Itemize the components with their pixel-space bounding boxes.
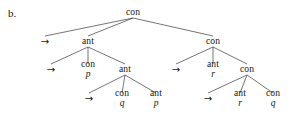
tree-node-ant: ant — [119, 65, 131, 75]
tree-node-label: ant — [119, 65, 131, 75]
tree-node-label: con — [206, 37, 220, 47]
tree-node-sublabel: p — [150, 99, 162, 109]
tree-node-ant: antr — [234, 89, 246, 109]
tree-node-label: con — [240, 65, 254, 75]
tree-edges — [0, 0, 297, 120]
tree-node-con: con — [206, 37, 220, 47]
tree-edge — [133, 18, 213, 36]
tree-node-con: conq — [115, 89, 129, 109]
arrow-icon: → — [204, 94, 212, 105]
tree-node-arrow: → — [47, 65, 55, 76]
tree-node-arrow: → — [85, 94, 93, 105]
figure-container: b. con→antcon→conpant→antrcon→conqantp→a… — [0, 0, 297, 120]
tree-node-sublabel: q — [266, 99, 280, 109]
tree-node-arrow: → — [172, 65, 180, 76]
arrow-icon: → — [47, 65, 55, 76]
tree-node-arrow: → — [41, 37, 49, 48]
tree-node-label: con — [126, 8, 140, 18]
tree-edge — [45, 18, 133, 36]
tree-node-arrow: → — [204, 94, 212, 105]
arrow-icon: → — [41, 37, 49, 48]
tree-edge — [88, 18, 133, 36]
tree-node-ant: antr — [207, 60, 219, 80]
tree-node-con: con — [126, 8, 140, 18]
tree-node-sublabel: p — [81, 70, 95, 80]
tree-node-sublabel: r — [207, 70, 219, 80]
tree-node-con: con — [240, 65, 254, 75]
tree-node-sublabel: q — [115, 99, 129, 109]
tree-node-sublabel: r — [234, 99, 246, 109]
tree-node-label: ant — [82, 37, 94, 47]
tree-node-ant: antp — [150, 89, 162, 109]
tree-node-ant: ant — [82, 37, 94, 47]
tree-node-con: conp — [81, 60, 95, 80]
tree-node-con: conq — [266, 89, 280, 109]
arrow-icon: → — [85, 94, 93, 105]
arrow-icon: → — [172, 65, 180, 76]
